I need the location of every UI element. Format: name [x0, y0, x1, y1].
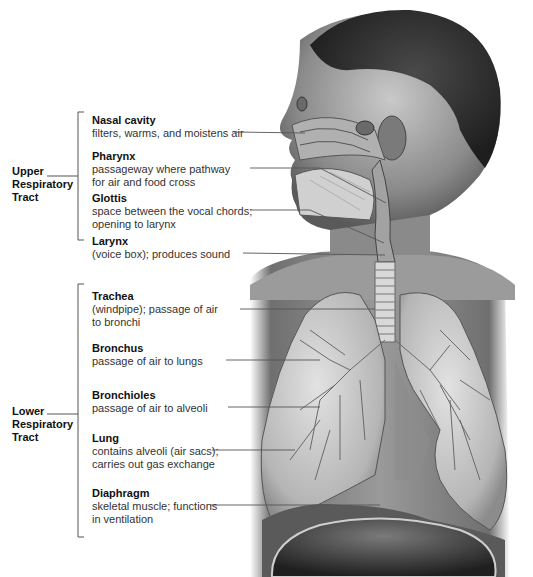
label-nasal-cavity: Nasal cavity filters, warms, and moisten…: [92, 114, 244, 140]
label-title: Lung: [92, 432, 219, 445]
label-bronchioles: Bronchioles passage of air to alveoli: [92, 389, 208, 415]
label-bronchus: Bronchus passage of air to lungs: [92, 342, 203, 368]
label-title: Trachea: [92, 290, 218, 303]
group-label-lower: Lower Respiratory Tract: [12, 405, 73, 444]
label-lung: Lung contains alveoli (air sacs); carrie…: [92, 432, 219, 471]
tongue: [295, 169, 374, 220]
label-title: Glottis: [92, 192, 252, 205]
label-title: Larynx: [92, 235, 230, 248]
label-diaphragm: Diaphragm skeletal muscle; functions in …: [92, 487, 217, 526]
label-desc: space between the vocal chords; opening …: [92, 205, 252, 231]
label-title: Bronchus: [92, 342, 203, 355]
label-desc: filters, warms, and moistens air: [92, 127, 244, 140]
label-desc: (voice box); produces sound: [92, 248, 230, 261]
label-desc: (windpipe); passage of air to bronchi: [92, 303, 218, 329]
label-title: Bronchioles: [92, 389, 208, 402]
label-desc: passage of air to lungs: [92, 355, 203, 368]
respiratory-illustration: [0, 0, 533, 577]
label-pharynx: Pharynx passageway where pathway for air…: [92, 150, 230, 189]
label-desc: skeletal muscle; functions in ventilatio…: [92, 500, 217, 526]
label-desc: passageway where pathway for air and foo…: [92, 163, 230, 189]
label-desc: contains alveoli (air sacs); carries out…: [92, 445, 219, 471]
label-title: Nasal cavity: [92, 114, 244, 127]
label-desc: passage of air to alveoli: [92, 402, 208, 415]
label-title: Diaphragm: [92, 487, 217, 500]
group-label-upper: Upper Respiratory Tract: [12, 165, 73, 204]
label-glottis: Glottis space between the vocal chords; …: [92, 192, 252, 231]
label-trachea: Trachea (windpipe); passage of air to br…: [92, 290, 218, 329]
label-larynx: Larynx (voice box); produces sound: [92, 235, 230, 261]
label-title: Pharynx: [92, 150, 230, 163]
